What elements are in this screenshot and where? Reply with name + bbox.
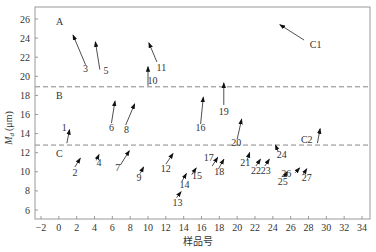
x-tick-label: −2 <box>36 222 47 233</box>
point-label: 17 <box>204 152 214 163</box>
data-point-17: 17 <box>204 152 218 166</box>
x-axis-title: 样品号 <box>183 235 213 247</box>
point-label: 24 <box>277 149 287 160</box>
y-tick-label: 12 <box>20 147 30 158</box>
data-point-11: 11 <box>149 43 166 73</box>
y-axis-title: Md(μm) <box>3 111 16 146</box>
vector-arrow <box>95 42 99 70</box>
data-point-5: 5 <box>95 42 108 76</box>
x-tick-label: 12 <box>161 222 171 233</box>
y-title-unit: (μm) <box>3 111 15 131</box>
point-label: 8 <box>124 124 129 135</box>
point-label: 15 <box>192 170 202 181</box>
data-point-7: 7 <box>115 151 129 173</box>
x-tick-label: 10 <box>143 222 153 233</box>
point-label: 3 <box>83 63 88 74</box>
data-points: 1234567891011121314151617181920212223242… <box>62 25 322 209</box>
data-point-27: 27 <box>302 169 312 183</box>
point-label: 11 <box>157 62 167 73</box>
point-label: C1 <box>310 39 322 50</box>
point-label: 27 <box>302 172 312 183</box>
x-tick-label: 24 <box>268 222 278 233</box>
data-point-8: 8 <box>124 104 135 135</box>
vector-arrow <box>317 129 320 143</box>
y-tick-label: 14 <box>20 128 30 139</box>
data-point-24: 24 <box>276 145 287 160</box>
point-label: 19 <box>219 106 229 117</box>
x-tick-label: 6 <box>110 222 115 233</box>
point-label: 4 <box>96 157 101 168</box>
point-label: 10 <box>147 75 157 86</box>
x-tick-label: 8 <box>128 222 133 233</box>
y-tick-label: 10 <box>20 166 30 177</box>
data-point-20: 20 <box>231 119 241 148</box>
y-title-sub: d <box>8 132 16 136</box>
data-point-23: 23 <box>261 159 271 175</box>
vector-arrow <box>75 158 80 167</box>
point-label: 21 <box>240 157 250 168</box>
point-label: 6 <box>109 122 114 133</box>
point-label: 7 <box>115 162 120 173</box>
data-point-26: 26 <box>281 168 299 179</box>
y-tick-label: 16 <box>20 109 30 120</box>
data-point-22: 22 <box>251 159 261 175</box>
point-label: 13 <box>172 197 182 208</box>
x-tick-label: 28 <box>304 222 314 233</box>
x-tick-label: 2 <box>74 222 79 233</box>
point-label: 26 <box>281 168 291 179</box>
vector-arrow <box>149 43 157 62</box>
point-label: 2 <box>72 167 77 178</box>
region-label-a: A <box>56 16 64 27</box>
region-label-b: B <box>56 90 63 101</box>
point-label: 20 <box>231 137 241 148</box>
point-label: 12 <box>161 163 171 174</box>
data-point-4: 4 <box>96 155 101 169</box>
y-tick-label: 24 <box>20 33 30 44</box>
vector-arrow <box>120 151 129 165</box>
y-tick-label: 18 <box>20 90 30 101</box>
vector-arrow <box>201 97 204 124</box>
point-label: 14 <box>180 179 190 190</box>
x-tick-label: 16 <box>197 222 207 233</box>
threshold-lines <box>35 87 370 145</box>
point-label: 5 <box>104 65 109 76</box>
y-tick-label: 20 <box>20 71 30 82</box>
x-tick-label: 26 <box>286 222 296 233</box>
data-point-c1: C1 <box>280 25 322 50</box>
svg-text:Md(μm): Md(μm) <box>3 111 16 146</box>
data-point-15: 15 <box>192 168 202 181</box>
point-label: 9 <box>137 172 142 183</box>
region-label-c: C <box>56 148 63 159</box>
data-point-6: 6 <box>109 101 115 133</box>
x-tick-label: 4 <box>92 222 97 233</box>
point-label: 22 <box>251 165 261 176</box>
x-tick-label: 30 <box>321 222 331 233</box>
point-label: 16 <box>196 122 206 133</box>
x-tick-label: 22 <box>250 222 260 233</box>
y-tick-label: 22 <box>20 52 30 63</box>
data-point-13: 13 <box>172 192 182 208</box>
x-tick-label: 18 <box>214 222 224 233</box>
data-point-12: 12 <box>161 154 173 174</box>
point-label: C2 <box>301 134 313 145</box>
vector-arrow <box>280 25 304 40</box>
vector-arrow <box>67 130 70 143</box>
y-tick-label: 26 <box>20 14 30 25</box>
data-point-21: 21 <box>240 153 250 169</box>
data-point-18: 18 <box>214 159 224 176</box>
data-point-19: 19 <box>219 83 229 117</box>
point-label: 23 <box>261 165 271 176</box>
y-tick-label: 8 <box>25 185 30 196</box>
point-label: 18 <box>214 166 224 177</box>
data-point-c2: C2 <box>301 129 320 145</box>
data-point-16: 16 <box>196 97 206 133</box>
x-tick-label: 32 <box>339 222 349 233</box>
y-tick-label: 6 <box>25 205 30 216</box>
x-tick-label: 20 <box>232 222 242 233</box>
vector-arrow <box>73 35 85 65</box>
chart: 68101214161820222426 −202468101214161820… <box>0 0 376 252</box>
x-tick-label: 34 <box>357 222 367 233</box>
vector-arrow <box>295 168 299 173</box>
x-tick-label: 14 <box>179 222 189 233</box>
data-point-9: 9 <box>137 167 144 183</box>
